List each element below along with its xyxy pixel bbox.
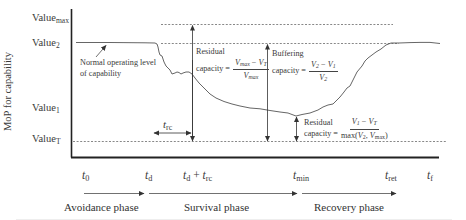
y-level-sub: max <box>56 16 69 25</box>
residual2-label-line1: Residual <box>304 118 338 129</box>
normal-annotation-line1: Normal operating level <box>80 58 156 69</box>
num-sub: T <box>264 61 267 67</box>
minus-sign: − <box>362 117 367 126</box>
time-sub: 0 <box>85 174 89 183</box>
trc-sub: rc <box>166 123 172 132</box>
plus-sign: + <box>193 169 200 181</box>
time-sub: d <box>186 174 190 183</box>
time-mark-td: td <box>145 170 152 182</box>
residual-fraction-2: V1 − VT max(V2, Vmax) <box>341 117 388 141</box>
minus-sign: − <box>321 60 326 69</box>
y-level-sub: 2 <box>56 41 60 50</box>
normal-operating-annotation: Normal operating level of capability <box>80 58 156 79</box>
time-sub: ret <box>388 174 397 183</box>
resilience-diagram-graphics <box>0 0 466 220</box>
y-level-value-1: Value1 <box>32 103 60 114</box>
buffering-label-line2: capacity = <box>272 66 306 77</box>
trc-label: trc <box>163 119 172 130</box>
y-axis-label: MoP for capability <box>2 52 13 131</box>
buffering-fraction: V2 − V1 V2 <box>309 60 338 84</box>
y-level-base: Value <box>32 12 56 23</box>
num-sub: T <box>374 120 377 126</box>
time-mark-tmin: tmin <box>293 170 309 182</box>
y-level-value-max: Valuemax <box>32 13 69 24</box>
phase-survival: Survival phase <box>184 201 249 213</box>
normal-level-pointer <box>96 46 106 58</box>
minus-sign: − <box>252 58 257 67</box>
residual-capacity-formula-2: Residual capacity = V1 − VT max(V2, Vmax… <box>304 118 388 141</box>
y-level-value-t: ValueT <box>32 134 61 145</box>
residual2-label-line2: capacity = <box>304 129 338 140</box>
num-sub: 1 <box>333 63 336 69</box>
num-sub: max <box>240 61 250 67</box>
time-sub: f <box>430 174 433 183</box>
num-sub: 2 <box>316 63 319 69</box>
y-level-sub: T <box>56 137 61 146</box>
residual-capacity-formula-1: Residual capacity = Vmax − VT Vmax <box>196 47 269 82</box>
residual-label-line1: Residual <box>196 47 269 58</box>
den-suffix: ) <box>385 131 388 140</box>
time-mark-tf: tf <box>427 170 433 182</box>
den-prefix: max( <box>341 131 358 140</box>
time-sub: d <box>148 174 152 183</box>
den-sub: max <box>375 134 385 140</box>
residual-label-line2: capacity = <box>196 64 230 75</box>
num-sub: 1 <box>357 120 360 126</box>
phase-avoidance: Avoidance phase <box>64 201 139 213</box>
y-level-base: Value <box>32 133 56 144</box>
den-sub: 2 <box>324 76 327 82</box>
normal-annotation-line2: of capability <box>80 69 156 80</box>
y-level-base: Value <box>32 102 56 113</box>
y-level-base: Value <box>32 37 56 48</box>
den-sub: max <box>248 74 258 80</box>
buffering-label-line1: Buffering <box>272 49 338 60</box>
buffering-capacity-formula: Buffering capacity = V2 − V1 V2 <box>272 49 338 84</box>
residual-fraction-1: Vmax − VT Vmax <box>233 58 269 82</box>
time-mark-tret: tret <box>385 170 397 182</box>
time-sub: min <box>296 174 309 183</box>
time-mark-t0: t0 <box>82 170 89 182</box>
y-level-sub: 1 <box>56 106 60 115</box>
time-mark-td-plus-trc: td + trc <box>183 170 212 182</box>
y-level-value-2: Value2 <box>32 38 60 49</box>
phase-recovery: Recovery phase <box>314 201 384 213</box>
time-sub: rc <box>206 174 212 183</box>
